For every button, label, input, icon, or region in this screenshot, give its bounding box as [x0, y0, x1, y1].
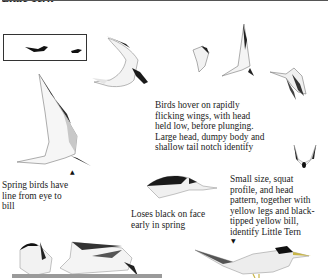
- page-header: Little Tern: [0, 0, 333, 6]
- caption-identify: Small size, squat profile, and head patt…: [230, 174, 333, 238]
- spring-tern-flight-illustration: [15, 72, 95, 164]
- up-arrow-marker: ▲: [70, 169, 75, 175]
- caption-spring: Spring birds have line from eye to bill: [2, 180, 122, 212]
- flying-tern-illustration: [90, 30, 160, 95]
- winter-head-tern-illustration: [145, 172, 220, 198]
- hovering-tern-illustration: [220, 22, 260, 82]
- hover-front-tern-illustration: [290, 143, 320, 173]
- caption-loses-black: Loses black on face early in spring: [131, 209, 241, 230]
- standing-little-tern-illustration: [193, 240, 313, 278]
- partial-tern-illustration: [193, 44, 215, 74]
- distant-silhouettes-inset: [3, 34, 87, 61]
- resting-terns-illustration: [12, 228, 162, 278]
- silhouette-terns-icon: [4, 35, 86, 60]
- diving-tern-illustration: [268, 64, 308, 104]
- header-rule: [2, 0, 328, 1]
